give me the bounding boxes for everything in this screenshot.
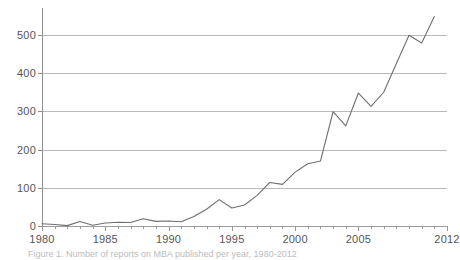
x-tick-1980 (42, 226, 43, 231)
x-tick-2012 (447, 226, 448, 231)
x-tick-2007 (384, 226, 385, 229)
x-axis-label-1980: 1980 (29, 233, 54, 245)
x-tick-1995 (232, 226, 233, 231)
y-axis-label-200: 200 (17, 144, 36, 156)
x-tick-2005 (358, 226, 359, 231)
plot-area: 0100200300400500 19801985199019952000200… (42, 12, 447, 226)
series-path (42, 17, 434, 226)
x-tick-2001 (308, 226, 309, 229)
x-axis-label-2005: 2005 (346, 233, 371, 245)
x-tick-1992 (194, 226, 195, 229)
x-tick-2011 (434, 226, 435, 229)
y-axis-label-400: 400 (17, 67, 36, 79)
x-tick-2009 (409, 226, 410, 229)
x-tick-1997 (257, 226, 258, 229)
x-tick-2000 (295, 226, 296, 231)
x-tick-1991 (181, 226, 182, 229)
x-tick-1989 (156, 226, 157, 229)
x-axis-label-1990: 1990 (156, 233, 181, 245)
x-tick-1984 (93, 226, 94, 229)
x-tick-1998 (270, 226, 271, 229)
x-tick-1990 (169, 226, 170, 231)
x-tick-1981 (55, 226, 56, 229)
y-axis-label-300: 300 (17, 105, 36, 117)
x-axis-label-2000: 2000 (282, 233, 307, 245)
x-tick-1985 (105, 226, 106, 231)
x-tick-1988 (143, 226, 144, 229)
x-tick-1986 (118, 226, 119, 229)
x-tick-1996 (245, 226, 246, 229)
line-series-publications (42, 12, 447, 226)
figure-caption: Figure 1. Number of reports on MBA publi… (28, 249, 448, 260)
x-axis-label-2012: 2012 (434, 233, 459, 245)
x-tick-2004 (346, 226, 347, 229)
x-tick-2003 (333, 226, 334, 229)
x-tick-2010 (422, 226, 423, 229)
x-tick-1993 (207, 226, 208, 229)
x-tick-1994 (219, 226, 220, 229)
y-axis-label-100: 100 (17, 182, 36, 194)
x-tick-1982 (67, 226, 68, 229)
x-tick-1999 (282, 226, 283, 229)
x-axis-label-1995: 1995 (219, 233, 244, 245)
x-tick-2008 (396, 226, 397, 229)
x-tick-1983 (80, 226, 81, 229)
x-axis-label-1985: 1985 (93, 233, 118, 245)
x-tick-1987 (131, 226, 132, 229)
x-tick-2002 (320, 226, 321, 229)
x-tick-2006 (371, 226, 372, 229)
y-axis-label-0: 0 (30, 220, 36, 232)
y-axis-label-500: 500 (17, 29, 36, 41)
